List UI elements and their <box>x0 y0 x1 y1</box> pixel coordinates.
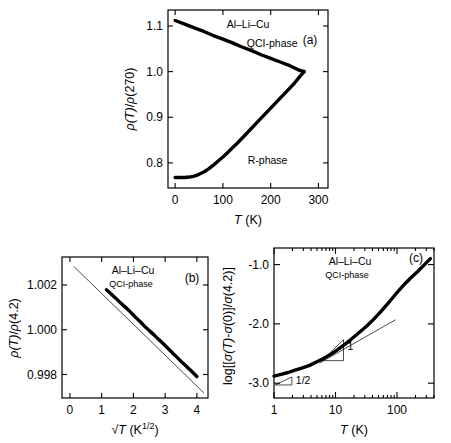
figure-root: 01002003000.80.91.01.1 Al–Li–Cu (a) QCI-… <box>0 0 451 443</box>
panel-c-y-tick-label: -1.0 <box>248 258 269 272</box>
panel-a-y-tick-label: 0.9 <box>146 110 163 124</box>
panel-c-svg: 110100-3.0-2.0-1.0 1/21 Al–Li–Cu QCI-pha… <box>216 242 449 442</box>
panel-a-annotation-r-phase: R-phase <box>248 154 288 166</box>
panel-b-x-tick-label: 0 <box>67 403 74 417</box>
panel-c-label: (c) <box>409 251 423 265</box>
panel-a-y-axis-label: ρ(T)/ρ(270) <box>123 68 137 132</box>
panel-c-y-axis-label: log[[σ(T)-σ(0)]/σ(4.2)] <box>221 267 235 385</box>
panel-a-x-tick-label: 300 <box>308 193 328 207</box>
panel-b-x-axis-label: √T (K1/2) <box>111 421 158 437</box>
panel-a-y-tick-label: 1.1 <box>146 19 163 33</box>
panel-a-y-tick-label: 0.8 <box>146 156 163 170</box>
panel-c-slope-label-0: 1/2 <box>296 374 311 386</box>
panel-a-x-tick-label: 200 <box>261 193 281 207</box>
panel-b-y-axis-label: ρ(T)/ρ(4.2) <box>7 298 21 359</box>
panel-a-x-tick-label: 100 <box>213 193 233 207</box>
panel-c-slope-triangle-0 <box>275 377 292 385</box>
panel-b-x-tick-label: 3 <box>162 403 169 417</box>
panel-a-svg: 01002003000.80.91.01.1 Al–Li–Cu (a) QCI-… <box>118 2 358 230</box>
panel-a-resistivity-vs-temperature: 01002003000.80.91.01.1 Al–Li–Cu (a) QCI-… <box>118 2 358 230</box>
panel-b-resistivity-vs-sqrt-temperature: 012340.9981.0001.002 Al–Li–Cu QCI-phase … <box>2 242 222 442</box>
panel-c-guides <box>320 320 396 363</box>
panel-c-y-tick-label: -3.0 <box>248 376 269 390</box>
panel-c-x-tick-label: 10 <box>329 403 343 417</box>
panel-b-data-points <box>106 290 196 377</box>
panel-b-label: (b) <box>185 271 200 285</box>
panel-b-y-tick-label: 1.000 <box>27 323 57 337</box>
panel-c-log-conductivity-vs-temperature: 110100-3.0-2.0-1.0 1/21 Al–Li–Cu QCI-pha… <box>216 242 449 442</box>
panel-a-x-axis-label: T (K) <box>234 213 262 227</box>
panel-c-y-tick-label: -2.0 <box>248 317 269 331</box>
panel-a-label: (a) <box>303 33 318 47</box>
panel-c-x-tick-label: 100 <box>387 403 407 417</box>
panel-c-x-tick-label: 1 <box>271 403 278 417</box>
panel-b-x-tick-label: 2 <box>130 403 137 417</box>
panel-a-x-tick-label: 0 <box>172 193 179 207</box>
panel-c-phase-subtitle: QCI-phase <box>325 270 369 280</box>
panel-b-phase-subtitle: QCI-phase <box>109 279 153 289</box>
panel-b-y-tick-label: 1.002 <box>27 278 57 292</box>
panel-b-x-tick-label: 1 <box>98 403 105 417</box>
panel-a-annotation-qci-phase: QCI-phase <box>247 37 298 49</box>
panel-a-y-tick-label: 1.0 <box>146 65 163 79</box>
panel-b-y-tick-label: 0.998 <box>27 368 57 382</box>
panel-c-sample-title: Al–Li–Cu <box>329 255 372 267</box>
panel-c-slope-one-guide <box>320 320 396 363</box>
panel-a-sample-title: Al–Li–Cu <box>227 18 270 30</box>
panel-b-x-tick-label: 4 <box>194 403 201 417</box>
panel-b-sample-title: Al–Li–Cu <box>112 264 155 276</box>
panel-b-svg: 012340.9981.0001.002 Al–Li–Cu QCI-phase … <box>2 242 222 442</box>
panel-c-x-axis-label: T (K) <box>340 423 368 437</box>
